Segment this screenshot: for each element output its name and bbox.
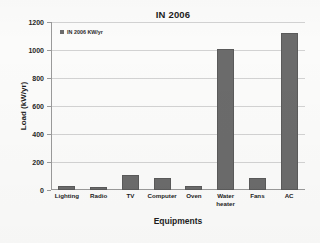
bar[interactable] xyxy=(90,187,107,190)
bar[interactable] xyxy=(58,186,75,190)
legend-label: IN 2006 KW/yr xyxy=(67,29,103,35)
bar[interactable] xyxy=(217,49,234,190)
bar-slot xyxy=(178,22,210,190)
bar-series xyxy=(51,22,305,190)
x-axis-tick-labels: LightingRadioTVComputerOvenWater heaterF… xyxy=(51,192,305,207)
x-axis-tick-label: Lighting xyxy=(51,192,83,207)
x-axis-tick-label: Oven xyxy=(178,192,210,207)
y-axis-tick-label: 1200 xyxy=(28,19,44,26)
x-axis-tick-label: Water heater xyxy=(210,192,242,207)
bar[interactable] xyxy=(249,178,266,190)
y-axis-tick-label: 200 xyxy=(32,159,44,166)
x-axis-tick-label: TV xyxy=(115,192,147,207)
chart-title: IN 2006 xyxy=(0,9,320,20)
chart-legend: IN 2006 KW/yr xyxy=(60,29,103,35)
x-axis-tick-label: Computer xyxy=(146,192,178,207)
y-axis-tick-label: 400 xyxy=(32,131,44,138)
x-axis-title: Equipments xyxy=(51,216,305,226)
bar-slot xyxy=(242,22,274,190)
bar-slot xyxy=(273,22,305,190)
bar-slot xyxy=(115,22,147,190)
bar[interactable] xyxy=(154,178,171,190)
y-axis-tick-labels: 020040060080010001200 xyxy=(0,22,51,190)
y-axis-tick-label: 600 xyxy=(32,103,44,110)
bar-slot xyxy=(83,22,115,190)
y-axis-tick-label: 0 xyxy=(40,187,44,194)
bar-slot xyxy=(210,22,242,190)
y-axis-tick-label: 800 xyxy=(32,75,44,82)
legend-swatch-icon xyxy=(60,30,64,34)
y-axis-tick-mark xyxy=(47,190,51,191)
x-axis-tick-label: Fans xyxy=(242,192,274,207)
chart-page: IN 2006 Load (kW/yr) 0200400600800100012… xyxy=(0,0,320,243)
bar[interactable] xyxy=(281,33,298,190)
bar-slot xyxy=(51,22,83,190)
y-axis-tick-label: 1000 xyxy=(28,47,44,54)
bar[interactable] xyxy=(122,175,139,190)
bar-slot xyxy=(146,22,178,190)
bar[interactable] xyxy=(185,186,202,190)
x-axis-tick-label: AC xyxy=(273,192,305,207)
x-axis-tick-label: Radio xyxy=(83,192,115,207)
